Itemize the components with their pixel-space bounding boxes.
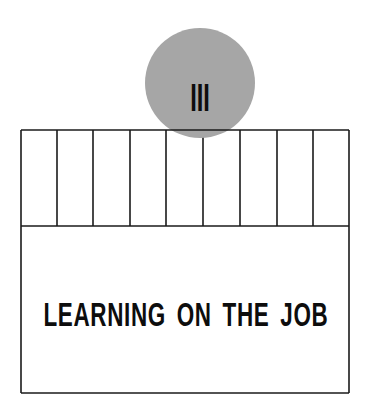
title-panel: LEARNING ON THE JOB xyxy=(21,226,350,393)
stripe-lines xyxy=(57,130,313,226)
part-numeral: III xyxy=(166,78,234,118)
part-title: LEARNING ON THE JOB xyxy=(43,295,328,334)
